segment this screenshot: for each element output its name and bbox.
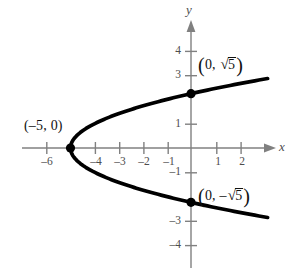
- graph-figure: x y –6 –4 –3 –2 –1 1 2 4 3 1 –1 –3 –4 (–…: [0, 0, 292, 277]
- vertex-point-marker: [66, 143, 75, 152]
- x-axis-label: x: [279, 139, 285, 155]
- open-paren: (: [198, 185, 205, 207]
- vertex-label: (–5, 0): [24, 118, 63, 134]
- close-paren: ): [236, 54, 243, 76]
- x-tick-label--2: –2: [132, 155, 156, 167]
- x-tick-label-2: 2: [230, 155, 254, 167]
- x-axis: [22, 144, 276, 153]
- upper-intercept-label: (0, √5): [198, 54, 243, 77]
- y-tick-label--1: –1: [160, 165, 181, 177]
- parabola-upper-branch: [71, 79, 268, 149]
- lower-intercept-label: (0, –√5): [198, 185, 250, 208]
- y-tick-label--4: –4: [160, 238, 181, 250]
- y-axis-label: y: [186, 2, 192, 18]
- x-tick-label--3: –3: [108, 155, 132, 167]
- y-tick-label--3: –3: [160, 214, 181, 226]
- y-tick-label-3: 3: [165, 68, 181, 80]
- y-tick-label-4: 4: [165, 44, 181, 56]
- upper-intercept-marker: [186, 89, 195, 98]
- radicand: 5: [228, 57, 236, 73]
- x-coordinate-zero: 0,: [205, 188, 216, 203]
- lower-intercept-marker: [186, 198, 195, 207]
- x-tick-label-1: 1: [206, 155, 230, 167]
- y-axis: [187, 20, 196, 268]
- square-root-icon: √5: [227, 187, 244, 204]
- square-root-icon: √5: [219, 56, 236, 73]
- open-paren: (: [198, 54, 205, 76]
- x-tick-label--6: –6: [35, 155, 59, 167]
- radicand: 5: [235, 188, 243, 204]
- minus-sign: –: [219, 188, 226, 203]
- coordinate-plane-svg: [0, 0, 292, 277]
- x-coordinate-zero: 0,: [205, 57, 216, 72]
- x-tick-label--4: –4: [84, 155, 108, 167]
- y-tick-label-1: 1: [165, 117, 181, 129]
- close-paren: ): [243, 185, 250, 207]
